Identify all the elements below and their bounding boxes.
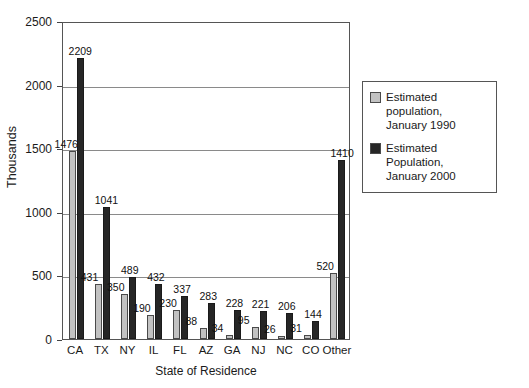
x-axis-title: State of Residence — [62, 364, 350, 378]
bar-value-label: 1041 — [95, 195, 118, 206]
bar-value-label: 95 — [238, 315, 250, 326]
bar-group: 190432 — [147, 23, 162, 339]
bar — [155, 284, 162, 339]
bar — [200, 328, 207, 339]
x-tick-label: FL — [173, 344, 186, 356]
y-tick-label: 1000 — [25, 207, 52, 219]
dark-swatch-icon — [370, 143, 381, 154]
bar-group: 88283 — [200, 23, 215, 339]
bar-value-label: 26 — [264, 324, 276, 335]
bar-value-label: 144 — [304, 309, 322, 320]
bar-group: 14762209 — [69, 23, 84, 339]
bar — [173, 310, 180, 339]
bar-value-label: 350 — [107, 282, 125, 293]
bar — [304, 335, 311, 339]
x-tick-label: CA — [67, 344, 83, 356]
legend-label-1990-line2: January 1990 — [386, 119, 456, 131]
bar — [252, 327, 259, 339]
x-axis: CATXNYILFLAZGANJNCCOOther — [62, 344, 350, 360]
bar-value-label: 206 — [278, 301, 296, 312]
y-tick-mark — [57, 340, 62, 341]
y-tick-label: 0 — [45, 334, 52, 346]
x-tick-label: IL — [149, 344, 159, 356]
legend-label-1990: Estimated population, January 1990 — [386, 90, 489, 132]
bar-group: 95221 — [252, 23, 267, 339]
bar — [330, 273, 337, 339]
bar — [77, 58, 84, 339]
bar-value-label: 221 — [252, 299, 270, 310]
bar-value-label: 337 — [173, 284, 191, 295]
bar-group: 26206 — [278, 23, 293, 339]
bar-value-label: 520 — [316, 261, 334, 272]
bar — [103, 207, 110, 339]
x-tick-label: NJ — [251, 344, 265, 356]
x-tick-label: Other — [323, 344, 352, 356]
plot-area: 1476220943110413504891904322303378828334… — [62, 22, 350, 340]
y-tick-label: 1500 — [25, 143, 52, 155]
x-tick-label: TX — [94, 344, 109, 356]
bar-value-label: 489 — [121, 265, 139, 276]
bar-value-label: 432 — [147, 272, 165, 283]
bar-value-label: 431 — [81, 272, 99, 283]
bar-group: 230337 — [173, 23, 188, 339]
bar-value-label: 230 — [159, 298, 177, 309]
bar-value-label: 34 — [212, 323, 224, 334]
light-gray-swatch-icon — [370, 92, 381, 103]
legend-label-2000-line1: Estimated Population, — [386, 142, 444, 168]
legend-label-2000: Estimated Population, January 2000 — [386, 141, 489, 183]
bar-group: 5201410 — [330, 23, 345, 339]
chart-legend: Estimated population, January 1990 Estim… — [362, 81, 497, 193]
y-tick-label: 2500 — [25, 16, 52, 28]
bar — [95, 284, 102, 339]
bar-value-label: 190 — [133, 303, 151, 314]
bar-value-label: 283 — [200, 291, 218, 302]
x-tick-label: CO — [302, 344, 319, 356]
bar-value-label: 88 — [186, 316, 198, 327]
bar-value-label: 1476 — [55, 139, 78, 150]
bar-chart: 05001000150020002500 Thousands 147622094… — [0, 0, 529, 388]
bar-value-label: 2209 — [69, 46, 92, 57]
x-tick-label: NC — [276, 344, 293, 356]
bar-value-label: 228 — [226, 298, 244, 309]
bar-group: 31144 — [304, 23, 319, 339]
x-tick-label: AZ — [199, 344, 214, 356]
legend-label-2000-line2: January 2000 — [386, 170, 456, 182]
legend-entry-2000: Estimated Population, January 2000 — [370, 141, 489, 183]
bar-group: 34228 — [226, 23, 241, 339]
bar-value-label: 1410 — [330, 148, 353, 159]
bar-value-label: 31 — [290, 323, 302, 334]
x-tick-label: NY — [119, 344, 135, 356]
bar — [278, 336, 285, 339]
bar — [338, 160, 345, 339]
x-tick-label: GA — [224, 344, 241, 356]
legend-label-1990-line1: Estimated population, — [386, 91, 442, 117]
legend-entry-1990: Estimated population, January 1990 — [370, 90, 489, 132]
y-tick-label: 500 — [32, 270, 52, 282]
bar — [147, 315, 154, 339]
bar — [121, 294, 128, 339]
y-axis-title: Thousands — [5, 97, 19, 217]
y-tick-label: 2000 — [25, 80, 52, 92]
bar — [226, 335, 233, 339]
bar — [69, 151, 76, 339]
bar-group: 350489 — [121, 23, 136, 339]
bar — [312, 321, 319, 339]
